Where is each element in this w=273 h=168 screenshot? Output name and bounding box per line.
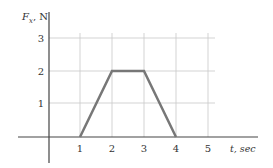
force-curve (80, 71, 176, 137)
svg-text:5: 5 (205, 143, 211, 154)
svg-text:3: 3 (141, 143, 147, 154)
x-tick-labels: 1 2 3 4 5 (77, 143, 211, 154)
x-axis-label: t, sec (230, 143, 256, 154)
axes (18, 12, 258, 163)
svg-text:1: 1 (77, 143, 83, 154)
force-time-chart: 1 2 3 4 5 1 2 3 t, sec Fx, N (0, 0, 273, 168)
grid (49, 33, 215, 137)
svg-text:2: 2 (109, 143, 115, 154)
y-tick-labels: 1 2 3 (38, 33, 44, 109)
svg-text:1: 1 (38, 98, 44, 109)
svg-text:2: 2 (38, 66, 44, 77)
svg-text:3: 3 (38, 33, 44, 44)
y-axis-label: Fx, N (21, 11, 48, 25)
svg-text:4: 4 (173, 143, 179, 154)
